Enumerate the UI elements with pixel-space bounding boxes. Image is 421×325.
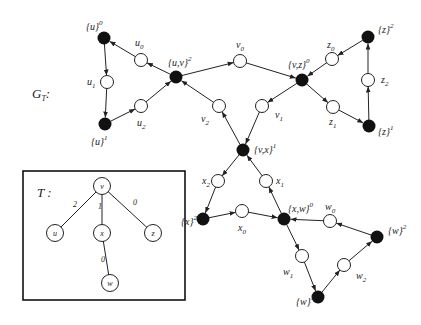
white-node-z_2 [362, 74, 375, 87]
tree-edge-weight: 1 [98, 202, 102, 211]
graph-edge-arrow [368, 86, 369, 120]
black-node-u1 [99, 118, 112, 131]
white-node-label: x2 [201, 175, 210, 189]
white-node-label: v0 [236, 39, 244, 53]
graph-edge-arrow [336, 223, 371, 235]
graph-edge-arrow [304, 262, 315, 291]
black-node-xw0 [278, 213, 291, 226]
black-node-x2 [197, 213, 210, 226]
graph-edge-arrow [307, 62, 327, 76]
white-node-z_1 [327, 101, 340, 114]
black-node-label: {x}2 [181, 214, 197, 227]
white-node-label: z2 [380, 74, 389, 88]
black-node-label: {v,x}1 [254, 142, 276, 155]
tree-title-label: T : [37, 185, 52, 200]
graph-edge-arrow [246, 112, 260, 145]
black-node-w2 [371, 231, 384, 244]
graph-nodes [98, 31, 384, 304]
graph-edges [104, 40, 372, 292]
graph-edge-arrow [205, 187, 215, 213]
white-node-label: w2 [356, 270, 367, 284]
graph-edge-arrow [110, 109, 135, 121]
black-node-label: {u}0 [86, 19, 103, 32]
black-node-label: {z}2 [378, 22, 394, 35]
black-node-label: {u}1 [91, 134, 108, 147]
white-node-z_0 [326, 53, 339, 66]
graph-edge-arrow [322, 270, 340, 292]
white-node-label: z1 [328, 116, 336, 130]
tree-node-label: w [107, 279, 113, 288]
white-node-w_1 [296, 250, 309, 263]
tree-node-label: v [100, 182, 104, 191]
black-node-z2 [362, 31, 375, 44]
white-node-w_2 [338, 259, 351, 272]
graph-edge-arrow [338, 110, 363, 123]
white-node-label: x0 [237, 222, 246, 236]
white-node-x_1 [260, 175, 273, 188]
graph-edge-arrow [182, 63, 234, 76]
white-node-label: x1 [275, 175, 284, 189]
graph-edge-arrow [105, 88, 106, 118]
white-node-x_0 [236, 205, 249, 218]
white-node-v_0 [234, 55, 247, 68]
tree-node-label: u [53, 229, 57, 238]
black-node-uv2 [170, 71, 183, 84]
graph-edge-arrow [290, 219, 324, 220]
white-node-u_2 [135, 100, 148, 113]
diagram-canvas: {u}0{u}1{u,v}2{v,z}0{z}2{z}1{v,x}1{x}2{x… [0, 0, 421, 325]
graph-edge-arrow [146, 81, 171, 102]
black-node-label: {z}1 [378, 124, 393, 137]
black-node-u0 [98, 32, 111, 45]
white-node-label: v2 [201, 113, 209, 127]
black-node-label: {v,z}0 [288, 57, 310, 70]
white-node-label: w0 [325, 201, 336, 215]
graph-edge-arrow [287, 224, 300, 250]
tree-edge-weight: 0 [101, 255, 105, 264]
graph-edge-arrow [349, 241, 372, 261]
tree-node-label: x [99, 229, 104, 238]
graph-edge-arrow [110, 41, 136, 57]
graph-edge-arrow [307, 84, 329, 103]
black-node-label: {u,v}2 [168, 55, 192, 68]
tree-inset: T : 2100 vuxzw [23, 171, 185, 300]
graph-edge-arrow [104, 44, 106, 76]
graph-edge-arrow [222, 112, 240, 145]
black-node-z1 [363, 120, 376, 133]
graph-edge-arrow [248, 212, 278, 218]
tree-edge [102, 186, 153, 233]
white-node-u_0 [135, 54, 148, 67]
tree-edge-weight: 2 [73, 200, 77, 209]
white-node-v_2 [213, 100, 226, 113]
graph-edge-arrow [222, 155, 239, 176]
black-node-vz0 [296, 74, 309, 87]
white-node-label: u2 [137, 117, 146, 131]
white-node-label: z0 [326, 39, 335, 53]
graph-edge-arrow [247, 155, 263, 176]
graph-edge-arrow [267, 83, 297, 102]
graph-title-label: GT: [32, 86, 50, 103]
graph-edge-arrow [209, 212, 236, 217]
black-node-label: {w}1 [296, 294, 314, 307]
white-node-u_1 [101, 76, 114, 89]
white-node-label: v1 [275, 109, 283, 123]
graph-edge-arrow [338, 40, 363, 55]
white-node-v_1 [256, 100, 269, 113]
tree-edge [55, 186, 102, 233]
graph-edge-arrow [269, 187, 282, 214]
white-node-label: u1 [87, 76, 96, 90]
graph-edge-arrow [181, 81, 214, 103]
white-node-x_2 [212, 175, 225, 188]
white-node-label: u0 [135, 37, 144, 51]
black-node-label: {x,w}0 [288, 201, 314, 214]
black-node-vx1 [237, 144, 250, 157]
tree-edge-weight: 0 [133, 198, 137, 207]
black-node-label: {w}2 [388, 223, 407, 236]
white-node-label: w1 [283, 266, 293, 280]
white-node-w_0 [324, 215, 337, 228]
